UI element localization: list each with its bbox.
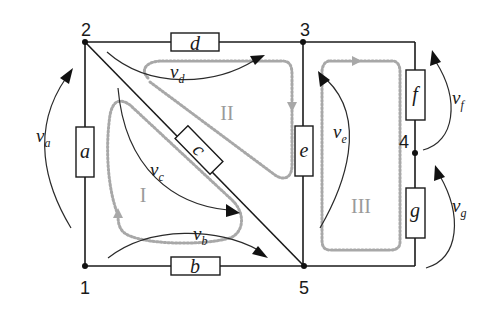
loop-III-arrow-icon	[352, 56, 362, 66]
loop-II-label: II	[220, 102, 233, 124]
voltage-vb: vb	[108, 223, 268, 258]
wires	[85, 42, 415, 266]
node-5-label: 5	[299, 278, 309, 298]
vf-arrowhead-icon	[430, 50, 441, 66]
svg-text:vc: vc	[150, 159, 164, 184]
component-b: b	[171, 255, 220, 277]
vf-subscript: f	[460, 98, 465, 112]
node-1-label: 1	[80, 278, 90, 298]
node-3-label: 3	[300, 20, 310, 40]
component-d: d	[171, 32, 219, 54]
vb-subscript: b	[201, 234, 207, 248]
loop-I-label: I	[140, 184, 147, 206]
component-e-label: e	[300, 139, 309, 161]
vg-subscript: g	[460, 206, 466, 220]
node-4-label: 4	[399, 132, 409, 152]
component-g: g	[406, 188, 425, 238]
svg-text:vd: vd	[170, 61, 185, 86]
ve-subscript: e	[341, 132, 347, 146]
component-e: e	[295, 126, 313, 176]
node-2-label: 2	[81, 20, 91, 40]
component-g-label: g	[410, 199, 420, 222]
node-1: 1	[80, 263, 90, 298]
loop-III-label: III	[351, 195, 371, 217]
va-arrowhead-icon	[60, 68, 73, 84]
va-subscript: a	[44, 136, 50, 150]
vc-subscript: c	[158, 170, 164, 184]
svg-text:va: va	[36, 125, 50, 150]
component-f: f	[406, 70, 425, 120]
loop-I-arrow-icon	[113, 208, 123, 218]
component-a: a	[76, 127, 94, 177]
vg-arrowhead-icon	[434, 165, 445, 181]
voltage-vg: vg	[426, 165, 466, 268]
vd-subscript: d	[178, 72, 185, 86]
svg-text:vf: vf	[452, 87, 465, 112]
voltage-vf: vf	[423, 50, 465, 150]
node-5: 5	[299, 263, 309, 298]
component-d-label: d	[190, 32, 201, 54]
loop-II-arrow-icon	[287, 102, 297, 112]
ve-arrowhead-icon	[318, 71, 330, 87]
loop-III	[322, 56, 400, 250]
svg-text:ve: ve	[333, 121, 347, 146]
component-b-label: b	[190, 255, 200, 277]
voltage-vd: vd	[107, 52, 265, 86]
component-a-label: a	[80, 140, 90, 162]
circuit-diagram: a b c d e f g 1 2 3 4 5	[0, 0, 494, 310]
voltage-va: va	[36, 68, 73, 228]
